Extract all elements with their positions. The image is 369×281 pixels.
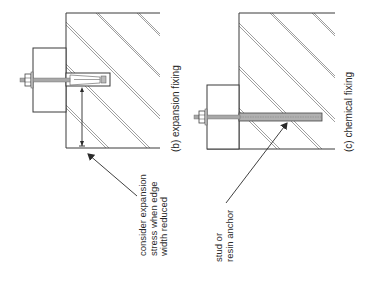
annotation-b: consider expansion stress when edge widt… <box>137 172 169 258</box>
caption-c: (c) chemical fixing <box>343 72 354 152</box>
fixings-diagram: consider expansion stress when edge widt… <box>0 0 369 281</box>
leader-arrow-b <box>88 154 137 196</box>
wall-hatching-c <box>239 13 335 165</box>
annotation-c: stud or resin anchor <box>213 210 235 262</box>
chemical-fixing-diagram: stud or resin anchor (c) chemical fixing <box>194 13 354 262</box>
expansion-cone <box>70 75 100 85</box>
edge-distance-arrow <box>79 87 85 146</box>
nut-c <box>199 111 205 123</box>
washer-b <box>31 72 33 88</box>
nut-b <box>25 74 31 86</box>
expansion-fixing-diagram: consider expansion stress when edge widt… <box>20 13 181 257</box>
washer-c <box>205 109 207 125</box>
wall-hatching-b <box>66 13 160 161</box>
caption-b: (b) expansion fixing <box>170 65 181 152</box>
